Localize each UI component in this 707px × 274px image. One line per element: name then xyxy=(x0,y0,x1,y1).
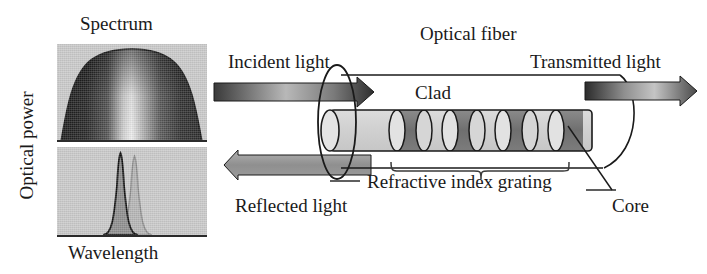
core-cylinder xyxy=(321,110,592,151)
grating-brace xyxy=(391,162,569,179)
fiber-diagram-svg xyxy=(0,0,707,274)
core-front-face xyxy=(321,110,339,151)
figure-canvas: Spectrum Optical power Wavelength xyxy=(0,0,707,274)
transmitted-light-arrow xyxy=(585,76,697,106)
